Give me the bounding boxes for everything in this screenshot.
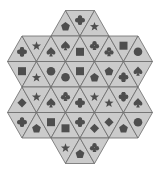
square-icon — [47, 118, 55, 126]
square-icon — [62, 124, 70, 132]
tile-layer — [8, 11, 153, 164]
square-icon — [76, 48, 84, 56]
circle-icon — [134, 118, 143, 127]
circle-icon — [61, 73, 70, 82]
circle-icon — [47, 67, 56, 76]
square-icon — [120, 42, 128, 50]
circle-icon — [134, 48, 143, 57]
puzzle-board — [0, 0, 160, 170]
square-icon — [18, 67, 26, 75]
square-icon — [76, 67, 84, 75]
